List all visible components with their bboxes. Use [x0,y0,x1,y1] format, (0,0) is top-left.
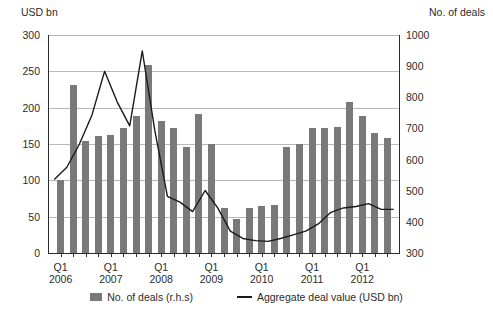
legend-label-deals: No. of deals (r.h.s) [107,291,193,303]
left-axis-tick: 100 [0,174,40,186]
chart-container: USD bn No. of deals 050100150200250300 3… [0,0,493,315]
right-axis-tick: 800 [406,91,448,103]
x-label-quarter: Q1 [154,261,168,273]
right-axis-tick: 300 [406,247,448,259]
left-axis-tick: 250 [0,65,40,77]
right-axis-tick: 700 [406,122,448,134]
left-axis-tick: 300 [0,29,40,41]
x-label-quarter: Q1 [355,261,369,273]
x-label-year: 2006 [49,273,72,285]
x-label-year: 2011 [301,273,324,285]
right-axis-tick: 1000 [406,29,448,41]
x-label-quarter: Q1 [54,261,68,273]
x-label-year: 2012 [351,273,374,285]
right-axis-unit-label: No. of deals [429,6,485,18]
right-axis-line [399,35,400,253]
line-series [48,35,400,253]
legend-line-swatch [237,296,252,298]
x-axis-line [48,253,400,254]
x-axis-label: Q12012 [332,261,392,285]
right-axis-tick: 500 [406,185,448,197]
x-label-quarter: Q1 [305,261,319,273]
right-axis-tick: 600 [406,154,448,166]
chart-legend: No. of deals (r.h.s) Aggregate deal valu… [0,289,493,305]
left-axis-tick: 50 [0,211,40,223]
x-label-year: 2009 [200,273,223,285]
x-label-quarter: Q1 [204,261,218,273]
right-axis-tick: 900 [406,60,448,72]
aggregate-deal-value-line [54,51,393,241]
x-label-year: 2010 [250,273,273,285]
right-axis-tick: 400 [406,216,448,228]
x-label-year: 2007 [99,273,122,285]
left-axis-line [48,35,49,253]
x-label-quarter: Q1 [104,261,118,273]
left-axis-unit-label: USD bn [21,6,58,18]
left-axis-tick: 200 [0,102,40,114]
legend-item-value: Aggregate deal value (USD bn) [237,291,403,303]
legend-bar-swatch [90,293,102,301]
legend-label-value: Aggregate deal value (USD bn) [257,291,403,303]
x-label-quarter: Q1 [255,261,269,273]
legend-item-deals: No. of deals (r.h.s) [90,291,193,303]
x-label-year: 2008 [149,273,172,285]
left-axis-tick: 150 [0,138,40,150]
plot-area [48,35,400,253]
left-axis-tick: 0 [0,247,40,259]
